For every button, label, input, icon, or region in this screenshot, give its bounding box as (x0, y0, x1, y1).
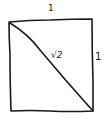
right-side-label: 1 (95, 52, 101, 62)
diagram-canvas: 1 1 √2 (0, 0, 106, 122)
diagonal-line (10, 23, 93, 111)
top-side-label: 1 (48, 4, 54, 13)
square-with-diagonal (0, 0, 106, 122)
diagonal-label: √2 (51, 51, 62, 60)
